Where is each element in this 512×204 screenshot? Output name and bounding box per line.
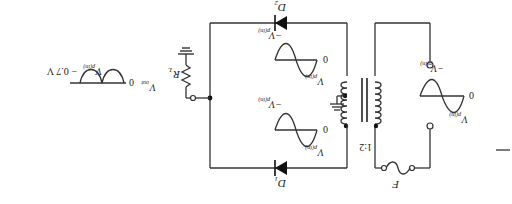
svg-text:p(in): p(in) <box>258 96 271 103</box>
svg-text:out: out <box>141 80 149 86</box>
svg-text:− 0.7 V: − 0.7 V <box>46 66 77 77</box>
svg-text:V: V <box>94 66 102 77</box>
load-resistor: R L <box>168 48 212 101</box>
svg-text:R: R <box>173 69 181 81</box>
diode-d2: D 2 <box>274 0 287 31</box>
circuit-diagram: F 0 V p(in) −V p(in) 1:2 <box>0 0 512 204</box>
svg-text:D: D <box>278 2 287 14</box>
svg-text:0: 0 <box>129 77 134 88</box>
svg-text:0: 0 <box>323 124 328 135</box>
svg-text:p(in): p(in) <box>258 27 271 34</box>
turns-ratio: 1:2 <box>359 142 372 153</box>
svg-text:V: V <box>316 76 324 87</box>
secondary-waveform-top: 0 V p(in) −V p(in) <box>258 96 328 158</box>
center-tap-ground <box>330 96 345 110</box>
svg-text:p(in): p(in) <box>449 111 462 118</box>
svg-text:p(in): p(in) <box>305 144 318 151</box>
svg-text:2: 2 <box>274 0 278 7</box>
svg-text:p(in): p(in) <box>420 60 433 67</box>
svg-text:D: D <box>278 178 287 190</box>
svg-text:p(in): p(in) <box>83 63 96 70</box>
secondary-waveform-bottom: 0 V p(in) −V p(in) <box>258 27 328 87</box>
svg-text:p(in): p(in) <box>305 73 318 80</box>
svg-text:0: 0 <box>323 54 328 65</box>
svg-text:1: 1 <box>275 175 279 183</box>
fuse: F <box>375 162 430 191</box>
svg-text:L: L <box>168 66 173 74</box>
terminal-top <box>427 123 433 129</box>
output-waveform: V out 0 V p(in) − 0.7 V <box>46 63 156 93</box>
diode-d1: D 1 <box>275 160 288 190</box>
svg-text:0: 0 <box>469 90 474 101</box>
svg-text:V: V <box>316 147 324 158</box>
svg-text:V: V <box>148 82 156 93</box>
fuse-label: F <box>392 179 400 191</box>
svg-text:V: V <box>460 114 468 125</box>
input-waveform: 0 V p(in) −V p(in) <box>420 60 474 125</box>
